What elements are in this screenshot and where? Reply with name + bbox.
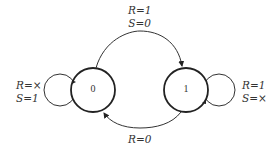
transition-1-to-0-condition-r: R=0	[128, 133, 151, 146]
self-loop-0-label: R=× S=1	[16, 79, 42, 105]
self-loop-0-condition-r: R=×	[16, 79, 42, 92]
transition-0-to-1-label: R=1 S=0	[128, 4, 151, 30]
state-1-label: 1	[176, 83, 196, 94]
transition-0-to-1-condition-s: S=0	[128, 17, 151, 30]
self-loop-1-condition-s: S=×	[242, 92, 267, 105]
self-loop-1-label: R=1 S=×	[242, 79, 267, 105]
state-0-label: 0	[83, 83, 103, 94]
transition-1-to-0-arc	[104, 112, 181, 128]
transition-1-to-0-label: R=0	[128, 133, 151, 146]
self-loop-1-condition-r: R=1	[242, 79, 267, 92]
transition-0-to-1-arc	[96, 31, 182, 68]
transition-0-to-1-condition-r: R=1	[128, 4, 151, 17]
self-loop-0-condition-s: S=1	[16, 92, 42, 105]
